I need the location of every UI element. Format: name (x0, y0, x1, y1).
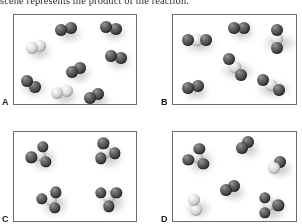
light-atom (51, 87, 63, 99)
dark-atom (220, 184, 232, 196)
dark-atom (235, 69, 247, 81)
dark-atom (66, 66, 78, 78)
panel-label-b: B (161, 98, 168, 107)
dark-atom (271, 24, 283, 36)
dark-atom (100, 21, 112, 33)
dark-atom (84, 92, 96, 104)
dark-atom (257, 74, 269, 86)
question-stem-text: scene represents the product of the reac… (0, 0, 302, 8)
dark-atom (273, 84, 285, 96)
dark-atom (236, 142, 248, 154)
dark-atom (105, 50, 117, 62)
dark-atom (21, 75, 33, 87)
light-atom (268, 162, 280, 174)
dark-atom (55, 24, 67, 36)
dark-atom (182, 34, 194, 46)
dark-atom (223, 53, 235, 65)
dark-atom (182, 82, 194, 94)
answer-choice-panel-d[interactable] (172, 131, 297, 222)
answer-choice-panel-c[interactable] (13, 131, 137, 222)
dark-atom (271, 42, 283, 54)
dark-atom (200, 34, 212, 46)
answer-choice-panel-a[interactable] (13, 14, 137, 105)
light-atom (188, 194, 200, 206)
dark-atom (228, 22, 240, 34)
panel-label-a: A (2, 98, 9, 107)
panel-label-d: D (161, 215, 168, 224)
panel-label-c: C (2, 215, 9, 224)
answer-choice-panel-b[interactable] (172, 14, 297, 105)
light-atom (26, 42, 38, 54)
